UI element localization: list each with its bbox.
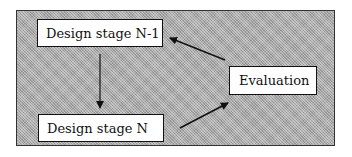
edge-evaluation-to-n1	[170, 38, 225, 60]
node-design-stage-n-minus-1: Design stage N-1	[37, 19, 163, 47]
edge-n2-to-evaluation	[180, 103, 228, 128]
node-evaluation: Evaluation	[229, 66, 317, 95]
node-design-stage-n: Design stage N	[38, 114, 164, 142]
